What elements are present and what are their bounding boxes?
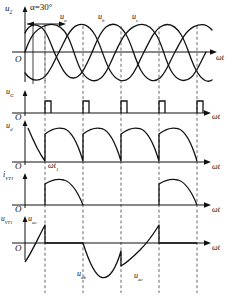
ud-y-arrow (23, 120, 28, 126)
axis-label-u2: u2 (5, 4, 12, 15)
wave-ud (28, 128, 197, 161)
iVT1-x-arrow (204, 202, 211, 207)
gate-pulse-1 (45, 101, 51, 113)
x-axis-label-u2: ωt (216, 54, 224, 62)
origin-label-iVT1: O (15, 205, 22, 214)
panel-iVT1 (12, 173, 211, 208)
gate-pulse-5 (197, 101, 203, 113)
wave-uVT1 (25, 225, 197, 278)
panel-uVT1 (12, 216, 211, 278)
uG-y-arrow (23, 90, 28, 96)
wave-label-ub: ub (98, 13, 104, 24)
x-axis-label-ud: ωt (212, 163, 220, 171)
alpha-annotation: α=30° (30, 3, 52, 12)
uVT1-x-arrow (204, 240, 211, 245)
waveform-figure (0, 0, 235, 297)
uVT1-y-arrow (23, 216, 28, 222)
gate-pulse-2 (83, 101, 89, 113)
segment-label-uac-1: uac (28, 215, 37, 226)
panel-u2 (12, 6, 217, 84)
wave-uc (25, 24, 212, 81)
axis-label-uG: uG (6, 88, 14, 99)
axis-label-ud: ud (6, 122, 12, 133)
x-axis-label-uG: ωt (212, 113, 220, 121)
origin-label-uG: O (15, 113, 22, 122)
segment-label-uab: uab (77, 270, 86, 281)
ud-x-arrow (204, 159, 211, 164)
segment-label-uac-2: uac (134, 272, 143, 283)
origin-label-uVT1: O (15, 244, 22, 253)
time-marker-wt1: ωt1 (48, 162, 58, 173)
axis-label-uVT1: uVT1 (1, 215, 13, 225)
origin-label-ud: O (15, 162, 22, 171)
gate-pulse-3 (121, 101, 127, 113)
x-axis-label-uVT1: ωt (212, 244, 220, 252)
x-axis-label-iVT1: ωt (212, 206, 220, 214)
origin-label-u2: O (15, 55, 22, 64)
panel-ud (12, 120, 211, 165)
wave-label-ua: ua (60, 13, 66, 24)
u2-y-arrow (23, 6, 28, 12)
panel-uG (12, 90, 211, 116)
wave-label-uc: uc (132, 13, 138, 24)
gate-pulse-train (45, 101, 203, 113)
axis-label-iVT1: iVT1 (3, 171, 14, 182)
uG-x-arrow (204, 110, 211, 115)
iVT1-y-arrow (23, 173, 28, 179)
gate-pulse-4 (159, 101, 165, 113)
wave-ua (25, 24, 206, 80)
